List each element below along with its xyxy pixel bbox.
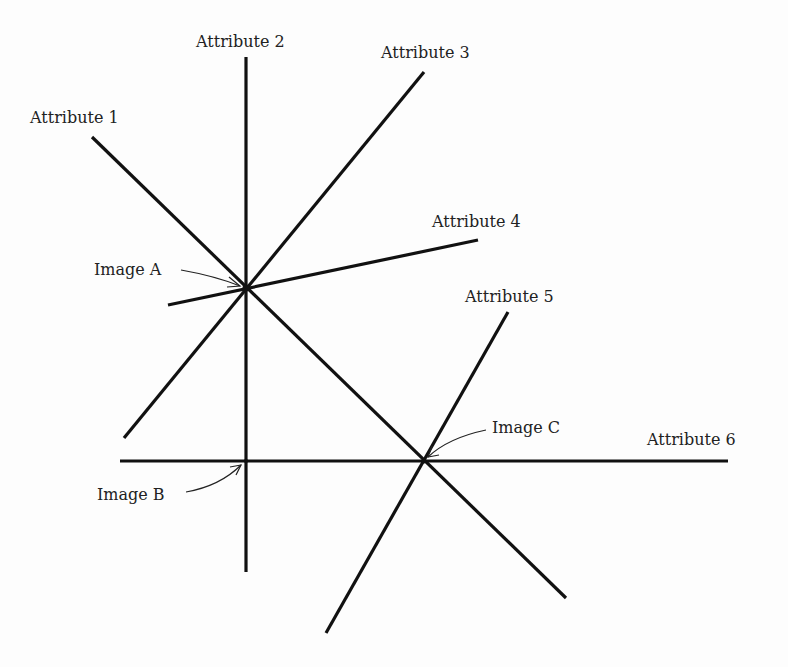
attribute-2-label: Attribute 2 [195, 32, 285, 51]
attribute-3-label: Attribute 3 [380, 43, 470, 62]
attribute-diagram: Attribute 1 Attribute 2 Attribute 3 Attr… [0, 0, 788, 667]
pointer-arrows [181, 270, 486, 492]
attribute-labels: Attribute 1 Attribute 2 Attribute 3 Attr… [29, 32, 736, 449]
image-b-label: Image B [97, 485, 165, 504]
image-b-arrow-icon [186, 465, 241, 492]
attribute-5-line [326, 312, 508, 633]
attribute-4-label: Attribute 4 [431, 212, 521, 231]
attribute-4-line [168, 240, 478, 305]
attribute-lines [92, 57, 728, 633]
image-a-point [243, 285, 250, 292]
attribute-5-label: Attribute 5 [464, 287, 554, 306]
attribute-6-label: Attribute 6 [646, 430, 736, 449]
image-b-point [244, 459, 248, 463]
image-a-label: Image A [94, 260, 162, 279]
image-c-point [422, 459, 427, 464]
attribute-1-label: Attribute 1 [29, 108, 119, 127]
image-c-arrow-icon [428, 430, 486, 457]
attribute-1-line [92, 137, 566, 598]
attribute-3-line [124, 72, 424, 438]
image-c-label: Image C [492, 418, 560, 437]
